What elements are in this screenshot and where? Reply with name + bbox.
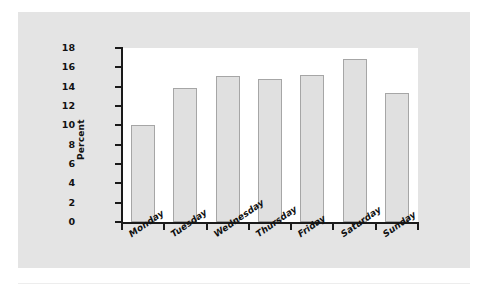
- x-tick-3: [248, 224, 250, 230]
- y-tick-16: [115, 66, 121, 68]
- y-tick-14: [115, 86, 121, 88]
- x-tick-1: [163, 224, 165, 230]
- y-axis-line: [121, 47, 123, 224]
- x-tick-2: [206, 224, 208, 230]
- y-tick-8: [115, 144, 121, 146]
- y-tick-12: [115, 105, 121, 107]
- y-tick-4: [115, 182, 121, 184]
- x-tick-4: [290, 224, 292, 230]
- bottom-divider: [18, 283, 470, 284]
- y-tick-label-6: 6: [35, 159, 75, 168]
- x-tick-7: [417, 224, 419, 230]
- chart-screenshot: 024681012141618 MondayTuesdayWednesdayTh…: [0, 0, 488, 300]
- y-tick-label-0: 0: [35, 217, 75, 226]
- bar-wednesday: [216, 76, 240, 222]
- y-tick-label-8: 8: [35, 140, 75, 149]
- y-tick-6: [115, 163, 121, 165]
- y-tick-18: [115, 47, 121, 49]
- bar-friday: [300, 75, 324, 222]
- y-tick-label-2: 2: [35, 198, 75, 207]
- y-tick-label-16: 16: [35, 62, 75, 71]
- y-tick-label-4: 4: [35, 178, 75, 187]
- bar-saturday: [343, 59, 367, 222]
- bar-sunday: [385, 93, 409, 222]
- bar-monday: [131, 125, 155, 222]
- y-tick-10: [115, 124, 121, 126]
- y-tick-label-10: 10: [35, 120, 75, 129]
- y-tick-label-12: 12: [35, 101, 75, 110]
- x-tick-0: [121, 224, 123, 230]
- x-tick-5: [332, 224, 334, 230]
- figure-panel: 024681012141618 MondayTuesdayWednesdayTh…: [18, 12, 470, 268]
- y-tick-0: [115, 221, 121, 223]
- bar-tuesday: [173, 88, 197, 222]
- y-axis-title: Percent: [76, 119, 86, 160]
- x-tick-6: [375, 224, 377, 230]
- y-tick-label-14: 14: [35, 82, 75, 91]
- y-tick-label-18: 18: [35, 43, 75, 52]
- y-tick-2: [115, 202, 121, 204]
